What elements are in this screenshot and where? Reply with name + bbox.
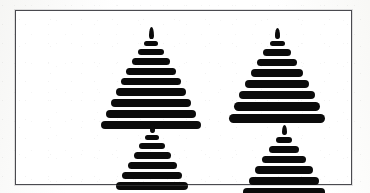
tree-bar <box>144 41 158 46</box>
tree-bar <box>234 102 320 111</box>
tree-bar <box>251 69 303 77</box>
tree-figure-bottom-left <box>104 123 200 193</box>
tree-bar <box>276 137 292 143</box>
tree-bar <box>269 146 299 153</box>
tree-bar <box>138 49 164 55</box>
tree-bar <box>270 41 285 46</box>
tree-bar <box>132 58 170 65</box>
tree-bar <box>116 182 188 190</box>
tree-bar <box>229 114 325 123</box>
tree-bar <box>111 99 191 107</box>
tree-figure-top-left <box>101 27 201 129</box>
tree-bar <box>106 110 196 118</box>
tree-bar <box>257 59 297 66</box>
plate-border-frame <box>15 10 352 185</box>
tree-bar <box>255 166 313 174</box>
figure-root <box>0 0 370 193</box>
tree-bar <box>145 135 159 140</box>
tree-bar <box>128 162 177 169</box>
tree-bar <box>139 143 165 149</box>
tree-bar <box>126 68 176 75</box>
tree-bar <box>121 78 181 85</box>
tree-figure-bottom-right <box>238 125 330 193</box>
flame-finial-icon <box>275 28 280 39</box>
tree-bar <box>262 156 306 163</box>
tree-bar <box>239 91 315 99</box>
flame-finial-icon <box>149 27 154 39</box>
flame-finial-icon <box>150 123 155 133</box>
tree-bar <box>122 172 182 179</box>
tree-bar <box>134 152 171 159</box>
tree-figure-top-right <box>229 28 325 123</box>
tree-bar <box>116 88 186 96</box>
flame-finial-icon <box>282 125 287 135</box>
tree-bar <box>245 80 309 88</box>
tree-bar <box>263 49 291 56</box>
tree-bar <box>249 177 319 185</box>
tree-bar <box>243 188 325 193</box>
